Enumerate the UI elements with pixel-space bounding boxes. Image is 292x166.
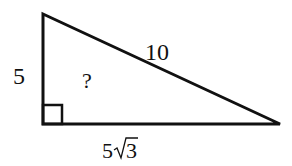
unknown-angle-label: ? <box>82 68 92 93</box>
bottom-side-label: 5 3 <box>102 138 138 163</box>
right-angle-marker <box>43 105 62 124</box>
triangle-diagram: 5 ? 10 5 3 <box>0 0 292 166</box>
triangle <box>43 14 280 124</box>
left-side-label: 5 <box>13 63 25 89</box>
bottom-side-radicand: 3 <box>126 138 137 163</box>
hypotenuse-label: 10 <box>145 39 169 65</box>
bottom-side-coefficient: 5 <box>102 138 113 163</box>
